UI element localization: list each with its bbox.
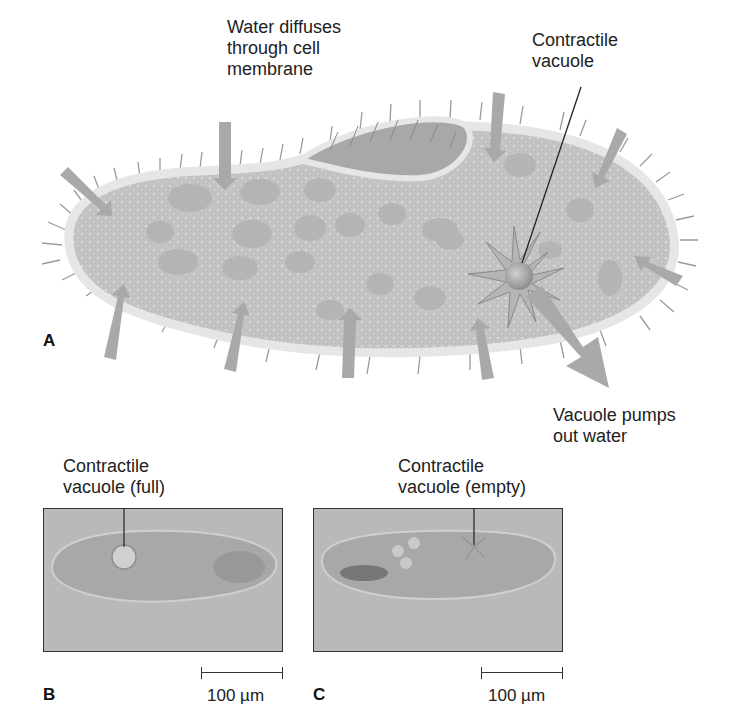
panel-letter-c: C (313, 685, 325, 705)
label-water-diffuses: Water diffuses through cell membrane (227, 17, 341, 80)
label-contractile-vacuole: Contractile vacuole (532, 30, 618, 72)
micrograph-empty-vacuole (313, 508, 563, 652)
label-vacuole-full: Contractile vacuole (full) (63, 456, 165, 498)
scale-bar-c (481, 667, 563, 679)
scale-label-c: 100 µm (488, 686, 545, 706)
label-vacuole-empty: Contractile vacuole (empty) (398, 456, 526, 498)
panel-letter-b: B (43, 685, 55, 705)
panel-letter-a: A (43, 331, 55, 351)
scale-label-b: 100 µm (207, 686, 264, 706)
micrograph-full-vacuole (43, 508, 283, 652)
label-vacuole-pumps: Vacuole pumps out water (553, 405, 676, 447)
scale-bar-b (201, 667, 283, 679)
